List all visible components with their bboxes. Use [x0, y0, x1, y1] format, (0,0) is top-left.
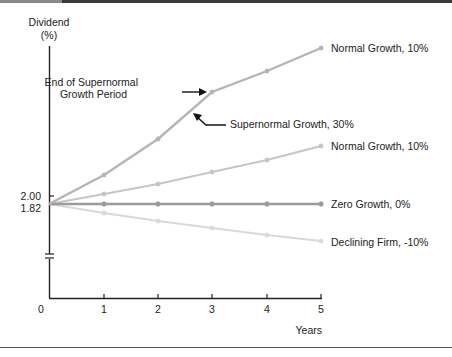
x-tick-label-2: 2 — [155, 303, 161, 315]
x-axis — [49, 294, 322, 299]
x-tick-label-4: 4 — [264, 303, 270, 315]
annotation-end-supernormal-line1: End of Supernormal — [45, 76, 138, 88]
x-tick-label-5: 5 — [318, 303, 324, 315]
label-zero-growth: Zero Growth, 0% — [331, 198, 410, 210]
annotation-end-supernormal-line2: Growth Period — [60, 88, 127, 100]
y-tick-label-2-00: 2.00 — [21, 190, 42, 202]
arrow-right-icon — [182, 88, 207, 96]
x-tick-label-1: 1 — [101, 303, 107, 315]
x-axis-label: Years — [296, 324, 322, 336]
x-tick-label-0: 0 — [38, 303, 44, 315]
annotation-supernormal-growth: Supernormal Growth, 30% — [230, 118, 354, 130]
arrow-up-left-icon — [193, 113, 226, 125]
series-normal-growth — [49, 144, 323, 204]
label-declining-firm: Declining Firm, -10% — [331, 236, 428, 248]
y-axis-label-line1: Dividend — [29, 16, 70, 28]
y-tick-label-1-82: 1.82 — [21, 202, 42, 214]
y-axis-label-line2: (%) — [41, 29, 57, 41]
series-declining-firm — [49, 204, 323, 243]
dividend-growth-chart: Dividend (%) 2.00 1.82 0 1 2 3 4 5 Years — [0, 0, 452, 357]
x-tick-label-3: 3 — [209, 303, 215, 315]
series-zero-growth — [49, 202, 323, 206]
label-normal-growth: Normal Growth, 10% — [331, 140, 428, 152]
label-top-normal-growth: Normal Growth, 10% — [331, 42, 428, 54]
